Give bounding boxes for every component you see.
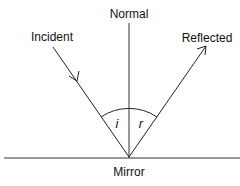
angle-i-label: i [116, 116, 120, 131]
incident-label: Incident [31, 30, 74, 44]
incident-ray [53, 47, 129, 157]
reflected-label: Reflected [182, 31, 233, 45]
reflected-ray [129, 46, 206, 157]
mirror-label: Mirror [113, 165, 144, 179]
angle-r-label: r [139, 116, 144, 131]
normal-label: Normal [110, 7, 149, 21]
reflection-diagram: Normal Incident Reflected Mirror i r [0, 0, 240, 186]
